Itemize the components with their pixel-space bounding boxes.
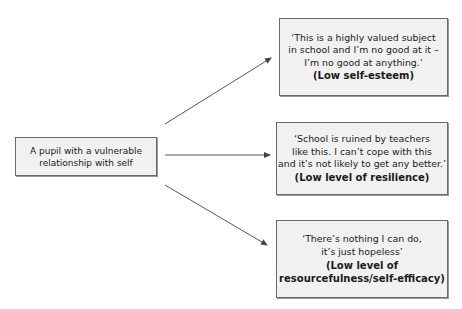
outcome-node-low-resilience: ‘School is ruined by teachers like this.… (276, 122, 448, 195)
outcome-node-low-self-esteem: ‘This is a highly valued subject in scho… (279, 18, 448, 96)
outcome-quote: ‘This is a highly valued subject in scho… (288, 32, 438, 70)
outcome-quote: ‘School is ruined by teachers like this.… (278, 133, 446, 171)
outcome-quote: ‘There’s nothing I can do, it’s just hop… (302, 233, 422, 258)
source-node-vulnerable-pupil: A pupil with a vulnerable relationship w… (15, 137, 157, 176)
outcome-label: (Low level of resourcefulness/self-effic… (279, 259, 445, 285)
arrow-to-low-self-efficacy (165, 185, 267, 245)
source-node-text: A pupil with a vulnerable relationship w… (30, 145, 142, 169)
outcome-label: (Low level of resilience) (295, 171, 430, 184)
outcome-label: (Low self-esteem) (313, 69, 414, 82)
outcome-node-low-self-efficacy: ‘There’s nothing I can do, it’s just hop… (276, 220, 448, 298)
arrow-to-low-self-esteem (165, 58, 271, 124)
